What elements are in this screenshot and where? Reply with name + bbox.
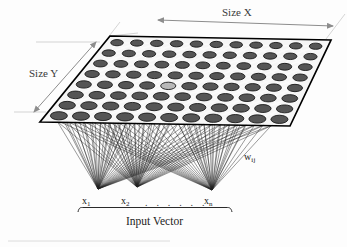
neuron-node: [237, 63, 251, 70]
neuron-node: [50, 112, 67, 120]
neuron-node: [170, 41, 183, 47]
neuron-node: [163, 51, 176, 57]
neuron-node: [218, 94, 234, 102]
input-node-label-xn-subscript: n: [209, 200, 213, 208]
neuron-node: [251, 73, 265, 80]
neuron-node: [89, 91, 105, 99]
neuron-node: [304, 53, 317, 59]
neuron-node: [94, 112, 111, 120]
neuron-node: [68, 91, 84, 99]
neuron-node: [250, 42, 263, 48]
weight-connection-lines: [58, 121, 273, 190]
neuron-node: [139, 113, 156, 121]
neuron-node: [124, 102, 140, 110]
neuron-node: [142, 51, 155, 57]
neuron-node: [122, 50, 135, 56]
weight-line: [137, 125, 255, 187]
neuron-node: [140, 82, 155, 89]
neuron-node: [134, 61, 148, 68]
size-x-arrow: [158, 20, 333, 26]
neuron-node: [182, 83, 197, 90]
input-node-label-x1: x1: [82, 196, 91, 208]
neuron-node: [85, 70, 99, 77]
weight-line: [194, 123, 212, 190]
input-node-label-x2-subscript: 2: [126, 200, 130, 208]
neuron-node: [102, 102, 118, 110]
neuron-node: [216, 62, 230, 69]
neuron-node: [205, 114, 222, 122]
neuron-node: [189, 104, 205, 112]
neuron-node: [230, 73, 244, 80]
neuron-node: [97, 81, 112, 88]
neuron-node: [270, 42, 283, 48]
weight-line: [144, 122, 213, 190]
neuron-node: [276, 105, 292, 113]
neuron-node: [161, 82, 176, 89]
neuron-node: [227, 115, 244, 123]
input-node-label-x1-subscript: 1: [87, 200, 91, 208]
size-x-label: Size X: [222, 7, 252, 18]
neuron-node: [131, 40, 144, 46]
neuron-node: [230, 42, 243, 48]
neuron-node: [223, 52, 236, 58]
neuron-node: [278, 63, 292, 70]
neuron-node: [147, 72, 161, 79]
neuron-node: [183, 51, 196, 57]
neuron-node: [257, 63, 271, 70]
neuron-node: [153, 93, 169, 101]
neuron-node: [210, 41, 223, 47]
input-node-label-x2: x2: [121, 196, 130, 208]
neuron-node: [110, 92, 126, 100]
input-vector-label: Input Vector: [126, 216, 183, 228]
weight-line: [178, 123, 212, 190]
weight-line: [98, 125, 238, 189]
weight-label: wij: [244, 152, 256, 164]
neuron-node: [245, 84, 260, 91]
neuron-node: [76, 81, 91, 88]
neuron-node: [59, 101, 75, 109]
neuron-node: [183, 114, 200, 122]
weight-line: [98, 125, 264, 189]
neuron-node: [243, 52, 256, 58]
neuron-node: [93, 60, 107, 67]
input-vector-brace: [78, 207, 232, 212]
neuron-node: [293, 74, 307, 81]
neuron-node: [255, 105, 271, 113]
neuron-node: [190, 41, 203, 47]
neuron-node: [106, 71, 120, 78]
neuron-node: [264, 53, 277, 59]
weight-line: [58, 122, 99, 189]
neuron-node: [224, 83, 239, 90]
neuron-node: [249, 115, 266, 123]
neuron-node: [189, 72, 203, 79]
neuron-node: [203, 83, 218, 90]
neuron-node: [126, 71, 140, 78]
neuron-node: [203, 52, 216, 58]
neuron-node: [266, 84, 281, 91]
neuron-node: [161, 113, 178, 121]
neuron-node: [271, 115, 288, 123]
neuron-node: [298, 64, 312, 71]
input-node-label-xn: xn: [204, 196, 213, 208]
size-y-label: Size Y: [29, 68, 58, 79]
neuron-node: [132, 92, 148, 100]
neuron-node: [168, 72, 182, 79]
neuron-node: [239, 94, 255, 102]
neuron-node: [146, 103, 162, 111]
neuron-node: [155, 61, 169, 68]
neuron-node: [72, 112, 89, 120]
neuron-node: [289, 43, 302, 49]
neuron-node: [175, 62, 189, 69]
neuron-node: [196, 62, 210, 69]
neuron-node: [233, 104, 249, 112]
neuron-node: [260, 94, 276, 102]
neuron-node: [272, 74, 286, 81]
neuron-node: [168, 103, 184, 111]
neuron-node: [210, 73, 224, 80]
neuron-node: [287, 84, 302, 91]
neuron-node: [175, 93, 191, 101]
neuron-node: [211, 104, 227, 112]
weight-label-subscript: ij: [251, 156, 255, 164]
neuron-node: [114, 61, 128, 68]
neuron-node: [282, 95, 298, 103]
